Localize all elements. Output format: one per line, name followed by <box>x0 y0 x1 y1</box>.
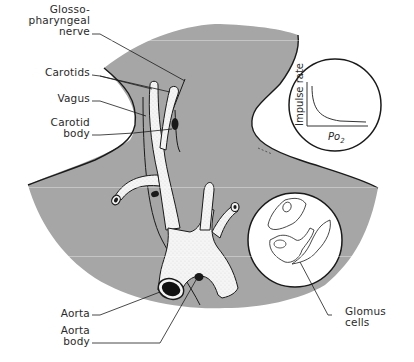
label-line: body <box>0 336 90 347</box>
label-carotids: Carotids <box>0 67 90 78</box>
carotid-body <box>172 118 179 130</box>
label-aorta: Aorta <box>0 308 90 319</box>
aortic-body <box>195 273 204 281</box>
left-subclavian-lumen <box>233 205 236 209</box>
label-vagus: Vagus <box>0 93 90 104</box>
inset-graph: Impulse rate Po2 <box>289 59 381 151</box>
label-glossopharyngeal-nerve: Glosso- pharyngeal nerve <box>0 4 90 37</box>
scan-artifact <box>0 256 414 257</box>
glomus-inset-circle <box>248 193 342 287</box>
graph-y-label: Impulse rate <box>294 63 305 126</box>
label-glomus-cells: Glomus cells <box>345 306 386 328</box>
label-line: body <box>0 128 90 139</box>
scan-artifact <box>0 40 414 41</box>
label-aorta-body: Aorta body <box>0 325 90 347</box>
label-line: nerve <box>0 26 90 37</box>
label-line: cells <box>345 317 386 328</box>
scan-artifact <box>0 187 414 188</box>
glomus-inset <box>248 193 342 287</box>
label-carotid-body: Carotid body <box>0 117 90 139</box>
